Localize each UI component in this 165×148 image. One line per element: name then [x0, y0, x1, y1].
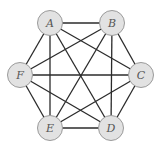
node-c: C: [129, 63, 154, 88]
node-label: B: [107, 17, 116, 30]
node-label: F: [15, 69, 24, 82]
node-f: F: [8, 63, 33, 88]
edge-c-e: [50, 75, 141, 128]
node-label: D: [106, 122, 116, 135]
edge-d-f: [20, 75, 111, 128]
node-b: B: [100, 11, 125, 36]
node-label: E: [45, 122, 54, 135]
node-d: D: [99, 116, 124, 141]
complete-graph-diagram: ABCDEF: [0, 0, 165, 148]
edge-a-c: [50, 23, 141, 75]
node-e: E: [38, 116, 63, 141]
node-a: A: [38, 11, 63, 36]
edges-group: [20, 23, 141, 128]
node-label: A: [45, 17, 54, 30]
node-label: C: [137, 69, 146, 82]
edge-b-f: [20, 23, 112, 75]
